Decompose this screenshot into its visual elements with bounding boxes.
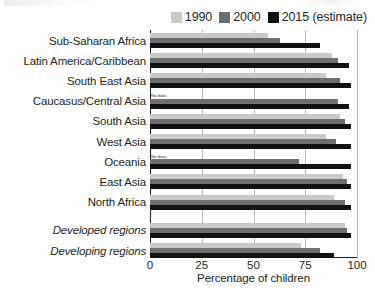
plot-area: No dataNo data bbox=[150, 30, 357, 258]
legend-label: 1990 bbox=[185, 11, 212, 24]
bar-2015 bbox=[150, 43, 320, 48]
bar-2015 bbox=[150, 104, 349, 109]
legend-label: 2000 bbox=[233, 11, 260, 24]
category-label-west-asia: West Asia bbox=[0, 136, 146, 148]
bar-row bbox=[150, 174, 357, 189]
bar-row bbox=[150, 53, 357, 68]
bar-row bbox=[150, 33, 357, 48]
bar-2015 bbox=[150, 184, 351, 189]
x-tick-25: 25 bbox=[195, 259, 208, 271]
bar-row: No data bbox=[150, 94, 357, 109]
cropped-text-artifact-right bbox=[300, 0, 360, 5]
bar-row: No data bbox=[150, 154, 357, 169]
category-label-developing-regions: Developing regions bbox=[0, 245, 146, 257]
cropped-text-artifact-left bbox=[4, 0, 114, 6]
bar-2015 bbox=[150, 233, 351, 238]
legend-swatch-icon bbox=[171, 12, 182, 23]
bar-row bbox=[150, 73, 357, 88]
bar-row bbox=[150, 243, 357, 258]
bar-2015 bbox=[150, 205, 351, 210]
bar-2015 bbox=[150, 253, 334, 258]
bar-2015 bbox=[150, 164, 351, 169]
category-label-oceania: Oceania bbox=[0, 156, 146, 168]
x-tick-50: 50 bbox=[247, 259, 260, 271]
bar-row bbox=[150, 223, 357, 238]
bar-row bbox=[150, 134, 357, 149]
no-data-label: No data bbox=[151, 154, 166, 159]
legend-item-2015: 2015 (estimate) bbox=[268, 11, 367, 24]
category-label-sub-saharan-africa: Sub-Saharan Africa bbox=[0, 35, 146, 47]
legend-swatch-icon bbox=[268, 12, 279, 23]
legend-item-1990: 1990 bbox=[171, 11, 212, 24]
bar-2015 bbox=[150, 83, 351, 88]
x-tick-75: 75 bbox=[299, 259, 312, 271]
bar-row bbox=[150, 195, 357, 210]
bar-2015 bbox=[150, 144, 351, 149]
chart-legend: 199020002015 (estimate) bbox=[0, 9, 375, 25]
bar-2015 bbox=[150, 124, 351, 129]
x-tick-0: 0 bbox=[147, 259, 153, 271]
legend-label: 2015 (estimate) bbox=[282, 11, 367, 24]
category-axis-labels: Sub-Saharan AfricaLatin America/Caribbea… bbox=[0, 30, 146, 258]
x-axis-title: Percentage of children bbox=[150, 272, 357, 285]
x-tick-100: 100 bbox=[347, 259, 366, 271]
category-label-caucasus-central-asia: Caucasus/Central Asia bbox=[0, 95, 146, 107]
category-label-developed-regions: Developed regions bbox=[0, 224, 146, 236]
category-label-latin-america-caribbean: Latin America/Caribbean bbox=[0, 55, 146, 67]
category-label-south-asia: South Asia bbox=[0, 115, 146, 127]
bar-rows: No dataNo data bbox=[150, 30, 357, 258]
value-axis-ticks: 0255075100 bbox=[150, 259, 357, 273]
no-data-label: No data bbox=[151, 93, 166, 98]
legend-item-2000: 2000 bbox=[219, 11, 260, 24]
legend-swatch-icon bbox=[219, 12, 230, 23]
category-label-east-asia: East Asia bbox=[0, 176, 146, 188]
category-label-north-africa: North Africa bbox=[0, 196, 146, 208]
bar-row bbox=[150, 114, 357, 129]
category-label-south-east-asia: South East Asia bbox=[0, 75, 146, 87]
bar-2015 bbox=[150, 63, 349, 68]
gridline-100 bbox=[357, 30, 358, 258]
